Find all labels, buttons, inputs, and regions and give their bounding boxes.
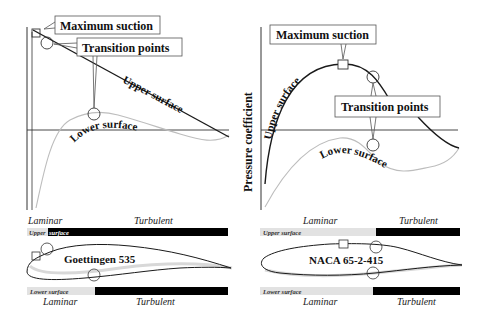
left-upper-transition-marker xyxy=(41,37,53,49)
right-y-axis-label: Pressure coefficient xyxy=(241,92,255,192)
left-lower-inline-label: Lower surface xyxy=(29,288,69,295)
left-upper-laminar-label: Laminar xyxy=(27,215,63,226)
left-pressure-chart: Maximum suction Transition points Upper … xyxy=(27,16,229,210)
right-lower-turbulent-bar xyxy=(373,287,460,295)
right-upper-bar-group: Laminar Turbulent Upper surface xyxy=(260,215,460,236)
left-upper-surface-label: Upper surface xyxy=(121,73,186,115)
right-lower-bar-group: Lower surface Laminar Turbulent xyxy=(260,287,460,307)
left-upper-bar-group: Laminar Turbulent Upper surface xyxy=(27,215,228,236)
right-lower-inline-label: Lower surface xyxy=(262,288,302,295)
goettingen-airfoil-shadow xyxy=(30,264,232,273)
goettingen-airfoil-name: Goettingen 535 xyxy=(64,253,136,265)
naca-max-suction-marker xyxy=(339,240,348,248)
right-lower-turbulent-label: Turbulent xyxy=(397,296,436,307)
left-upper-inline-label-light: Upper xyxy=(29,229,46,236)
naca-airfoil-name: NACA 65-2-415 xyxy=(309,254,384,266)
left-upper-turbulent-label: Turbulent xyxy=(134,215,173,226)
left-lower-laminar-label: Laminar xyxy=(42,296,78,307)
left-max-suction-label: Maximum suction xyxy=(60,19,153,33)
naca-airfoil: NACA 65-2-415 xyxy=(261,240,462,279)
right-transition-pointer-upper xyxy=(371,83,376,96)
right-upper-laminar-label: Laminar xyxy=(302,215,338,226)
left-lower-transition-marker xyxy=(88,108,100,120)
naca-upper-transition-marker xyxy=(370,241,382,253)
airfoil-pressure-diagram: Maximum suction Transition points Upper … xyxy=(0,0,484,321)
right-upper-turbulent-label: Turbulent xyxy=(399,215,438,226)
right-max-suction-marker xyxy=(338,60,348,69)
left-lower-turbulent-label: Turbulent xyxy=(136,296,175,307)
right-upper-surface-curve-tail xyxy=(418,117,459,148)
left-lower-surface-label: Lower surface xyxy=(67,118,139,145)
right-max-suction-label: Maximum suction xyxy=(276,28,369,42)
left-upper-turbulent-bar xyxy=(48,228,228,236)
goettingen-airfoil: Goettingen 535 xyxy=(27,243,232,281)
left-transition-label: Transition points xyxy=(82,41,170,55)
right-max-suction-pointer xyxy=(341,44,346,59)
right-pressure-chart: Pressure coefficient Maximum suction Tra… xyxy=(241,25,459,210)
right-lower-laminar-label: Laminar xyxy=(302,296,338,307)
left-lower-turbulent-bar xyxy=(95,287,228,295)
left-lower-surface-curve xyxy=(36,112,229,208)
left-lower-bar-group: Lower surface Laminar Turbulent xyxy=(27,287,228,307)
right-lower-surface-label: Lower surface xyxy=(317,143,390,170)
left-max-suction-pointer xyxy=(44,22,55,29)
right-upper-inline-label: Upper surface xyxy=(263,229,301,236)
right-transition-label: Transition points xyxy=(341,100,429,114)
right-upper-turbulent-bar xyxy=(376,228,460,236)
right-transition-pointer-lower xyxy=(370,117,376,139)
left-upper-inline-label-dark: surface xyxy=(48,229,69,236)
